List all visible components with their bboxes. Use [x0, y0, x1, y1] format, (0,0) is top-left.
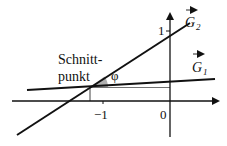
- intersection-label-line2: punkt: [58, 69, 90, 84]
- g1-label: G 1: [192, 54, 208, 77]
- svg-text:G: G: [192, 60, 202, 75]
- tick-label-x-minus-one: −1: [94, 107, 108, 122]
- svg-text:2: 2: [196, 22, 201, 32]
- svg-text:G: G: [185, 15, 195, 30]
- g2-label: G 2: [185, 10, 201, 32]
- tick-label-origin: 0: [160, 107, 167, 122]
- angle-label: φ: [111, 68, 119, 83]
- intersection-label-line1: Schnitt-: [58, 52, 103, 67]
- tick-label-y-one: 1: [158, 23, 165, 38]
- svg-text:1: 1: [203, 67, 208, 77]
- diagram: Schnitt- punkt φ G 2 G 1 1 −1 0: [0, 0, 227, 146]
- line-g1: [27, 79, 215, 90]
